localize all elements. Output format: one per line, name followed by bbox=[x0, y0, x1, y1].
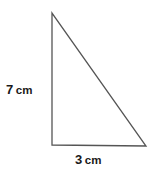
horizontal-leg-value: 3 bbox=[75, 152, 82, 167]
horizontal-leg-unit: cm bbox=[85, 154, 102, 166]
horizontal-leg-label: 3cm bbox=[75, 151, 101, 167]
vertical-leg-value: 7 bbox=[6, 82, 13, 97]
vertical-leg-label: 7cm bbox=[6, 81, 32, 97]
triangle-figure: 7cm 3cm bbox=[0, 0, 154, 169]
vertical-leg-unit: cm bbox=[16, 84, 33, 96]
right-triangle-outline bbox=[52, 13, 146, 146]
